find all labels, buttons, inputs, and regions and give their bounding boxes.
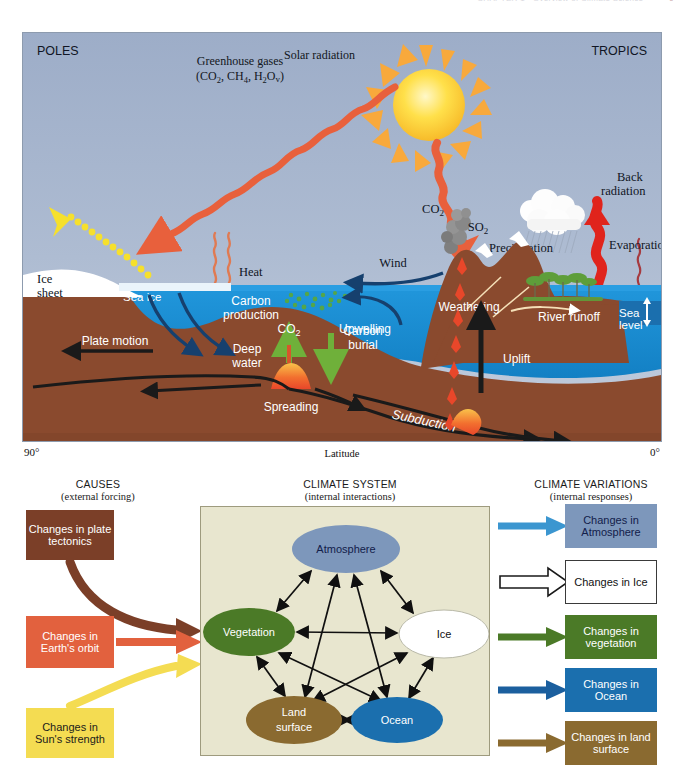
response-box-land-surface[interactable]: Changes in land surface	[565, 721, 657, 765]
column-title-variations: CLIMATE VARIATIONS	[498, 478, 684, 490]
label-river-runoff: River runoff	[538, 310, 600, 324]
column-subtitle-system: (internal interactions)	[250, 491, 450, 502]
label-tropics: TROPICS	[591, 44, 647, 58]
link-ice-land-surface	[313, 653, 407, 701]
label-heat: Heat	[239, 265, 263, 279]
cause-label-plate-tectonics: Changes in plate tectonics	[28, 523, 112, 548]
sea-ice-strip	[119, 283, 231, 291]
latitude-axis-title: Latitude	[325, 448, 360, 459]
response-label-land-surface: Changes in land surface	[567, 731, 655, 756]
system-node-label-land-surface-2: surface	[276, 721, 312, 733]
label-wind: Wind	[379, 256, 407, 270]
column-subtitle-causes: (external forcing)	[8, 491, 188, 502]
system-node-label-land-surface-1: Land	[282, 706, 306, 718]
response-label-atmosphere: Changes in Atmosphere	[567, 514, 655, 539]
label-spreading: Spreading	[264, 400, 319, 414]
label-carbon-burial-2: burial	[348, 338, 377, 352]
column-header-causes: CAUSES (external forcing)	[8, 478, 188, 502]
system-node-atmosphere: Atmosphere	[292, 525, 400, 573]
label-solar-radiation: Solar radiation	[284, 48, 355, 62]
label-back-radiation-2: radiation	[601, 184, 646, 198]
climate-system-flow-diagram: CAUSES (external forcing) CLIMATE SYSTEM…	[0, 478, 684, 761]
cause-box-plate-tectonics[interactable]: Changes in plate tectonics	[26, 510, 114, 560]
label-ice-sheet-1: Ice	[37, 272, 53, 286]
label-back-radiation-1: Back	[617, 170, 643, 184]
response-label-vegetation: Changes in vegetation	[567, 625, 655, 650]
system-node-ice: Ice	[399, 610, 489, 658]
link-vegetation-ocean	[279, 653, 381, 701]
link-atmosphere-vegetation	[277, 571, 311, 611]
label-poles: POLES	[37, 44, 79, 58]
system-node-vegetation: Vegetation	[203, 608, 295, 656]
system-node-ocean: Ocean	[351, 697, 443, 743]
label-ice-sheet-2: sheet	[37, 286, 63, 300]
cause-label-suns-strength: Changes in Sun's strength	[28, 721, 112, 746]
label-deep-water-2: water	[231, 356, 261, 370]
running-head: CHAPTER 1 · Overview of Climate Science	[477, 0, 643, 3]
latitude-axis: 90° Latitude 0°	[22, 446, 662, 464]
response-box-atmosphere[interactable]: Changes in Atmosphere	[565, 504, 657, 548]
label-sea-ice: Sea ice	[123, 291, 161, 303]
response-box-ocean[interactable]: Changes in Ocean	[565, 668, 657, 712]
label-deep-water-1: Deep	[233, 342, 262, 356]
system-node-label-ice: Ice	[437, 628, 452, 640]
label-greenhouse-gases: Greenhouse gases	[197, 54, 284, 68]
label-sea-level-2: level	[619, 319, 643, 331]
label-carbon-production-2: production	[223, 308, 279, 322]
system-node-label-ocean: Ocean	[381, 714, 413, 726]
arrow-response-ice	[500, 568, 568, 596]
label-carbon-production-1: Carbon	[231, 294, 270, 308]
page-header: CHAPTER 1 · Overview of Climate Science …	[0, 0, 684, 14]
response-label-ocean: Changes in Ocean	[567, 678, 655, 703]
climate-system-panel: Atmosphere Vegetation Ice Land surface O…	[200, 506, 490, 756]
column-subtitle-variations: (internal responses)	[498, 491, 684, 502]
link-ice-ocean	[409, 658, 433, 698]
label-greenhouse-formula: (CO2, CH4, H2Ov)	[196, 69, 284, 85]
cause-box-earths-orbit[interactable]: Changes in Earth's orbit	[26, 616, 114, 668]
label-uplift: Uplift	[503, 352, 531, 366]
label-evaporation: Evaporation	[609, 238, 661, 252]
link-vegetation-land-surface	[257, 657, 285, 696]
column-title-causes: CAUSES	[8, 478, 188, 490]
cause-label-earths-orbit: Changes in Earth's orbit	[28, 630, 112, 655]
label-carbon-burial-1: Carbon	[343, 324, 382, 338]
column-header-climate-variations: CLIMATE VARIATIONS (internal responses)	[498, 478, 684, 502]
link-atmosphere-ice	[381, 571, 413, 613]
crust-texture	[23, 433, 661, 441]
system-node-label-atmosphere: Atmosphere	[316, 543, 375, 555]
response-box-ice[interactable]: Changes in Ice	[565, 560, 657, 604]
column-header-climate-system: CLIMATE SYSTEM (internal interactions)	[250, 478, 450, 502]
system-node-label-vegetation: Vegetation	[223, 626, 275, 638]
latitude-tick-right: 0°	[650, 446, 660, 458]
label-weathering: Weathering	[438, 300, 499, 314]
latitude-tick-left: 90°	[24, 446, 39, 458]
system-node-land-surface: Land surface	[246, 696, 342, 744]
page-number: 9	[669, 0, 674, 3]
response-box-vegetation[interactable]: Changes in vegetation	[565, 615, 657, 659]
arrow-suns-strength	[70, 666, 176, 706]
link-vegetation-ice	[297, 632, 397, 633]
label-plate-motion: Plate motion	[82, 334, 149, 348]
climate-cross-section-diagram: POLES TROPICS Greenhouse gases (CO2, CH4…	[22, 32, 662, 442]
link-atmosphere-ocean	[354, 575, 387, 697]
response-label-ice: Changes in Ice	[574, 576, 647, 588]
cause-box-suns-strength[interactable]: Changes in Sun's strength	[26, 708, 114, 758]
column-title-system: CLIMATE SYSTEM	[250, 478, 450, 490]
label-sea-level-1: Sea	[619, 307, 640, 319]
